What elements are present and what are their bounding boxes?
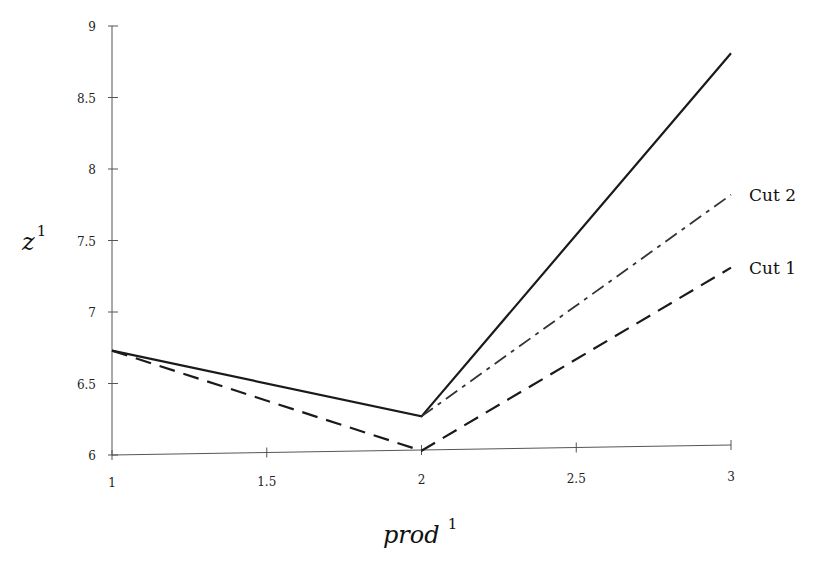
y-tick-label: 6.5: [77, 378, 96, 392]
x-tick-label: 1: [108, 476, 116, 490]
x-tick-label: 2: [418, 473, 426, 487]
x-tick-label: 2.5: [567, 472, 586, 486]
x-tick-label: 1.5: [257, 475, 276, 489]
x-tick-label: 3: [727, 470, 735, 484]
y-tick-label: 6: [88, 449, 96, 463]
series-group: [112, 53, 731, 451]
y-axis-title-superscript: 1: [37, 222, 47, 240]
axes: [112, 26, 731, 455]
x-axis-title-superscript: 1: [448, 515, 458, 533]
series-line-cut-2: [422, 195, 732, 417]
y-axis-title: z1: [21, 222, 46, 256]
legend-label-cut-2: Cut 2: [749, 185, 796, 205]
y-tick-label: 9: [88, 20, 96, 34]
series-line-objective: [112, 53, 731, 416]
legend: Cut 2Cut 1: [749, 185, 796, 278]
chart: 66.577.588.59 11.522.53 Cut 2Cut 1 z1 pr…: [0, 0, 815, 572]
y-tick-label: 8: [88, 163, 96, 177]
legend-label-cut-1: Cut 1: [749, 258, 796, 278]
x-axis-title-base: prod: [383, 521, 440, 549]
y-tick-label: 7: [88, 306, 96, 320]
y-tick-label: 7.5: [77, 235, 96, 249]
y-axis-title-base: z: [21, 228, 35, 256]
series-line-cut-1: [112, 268, 731, 451]
x-ticks: 11.522.53: [108, 440, 735, 490]
y-tick-label: 8.5: [77, 92, 96, 106]
x-axis-title: prod1: [383, 515, 457, 549]
